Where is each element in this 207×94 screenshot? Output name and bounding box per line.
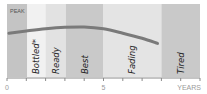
x-axis-tick-labels: 05YEARS <box>5 84 201 91</box>
band-label-best: Best <box>80 55 90 74</box>
band-label-bottled: Bottled* <box>31 39 41 74</box>
x-tick-label: YEARS <box>177 84 201 91</box>
x-tick-label: 5 <box>102 84 106 91</box>
x-tick-label: 0 <box>5 84 9 91</box>
band-label-ready: Ready <box>51 46 61 74</box>
wine-maturity-chart: PEAK Bottled*ReadyBestFadingTired 05YEAR… <box>0 0 207 94</box>
peak-label: PEAK <box>10 8 25 14</box>
band-label-fading: Fading <box>127 45 137 74</box>
band-pre-release <box>7 4 27 77</box>
band-label-tired: Tired <box>176 52 186 74</box>
